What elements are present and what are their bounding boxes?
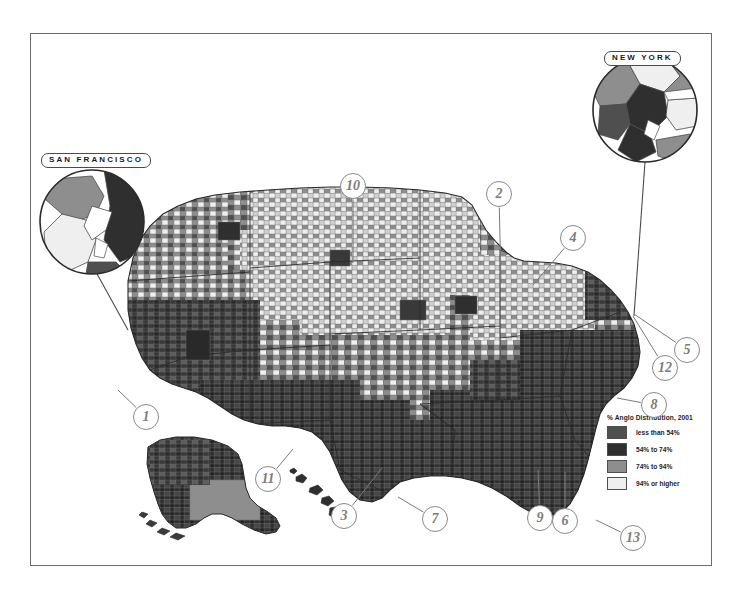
map-marker-6[interactable]: 6	[552, 508, 578, 534]
map-marker-1[interactable]: 1	[133, 404, 159, 430]
inset-label-new-york: NEW YORK	[604, 51, 681, 66]
map-marker-label: 6	[562, 513, 569, 529]
map-marker-label: 4	[570, 230, 577, 246]
legend-swatch	[607, 443, 627, 456]
map-marker-label: 9	[537, 510, 544, 526]
map-marker-label: 12	[658, 360, 672, 376]
legend-label: 94% or higher	[636, 480, 680, 487]
legend-swatch	[607, 426, 627, 439]
legend-swatch	[607, 460, 627, 473]
legend-row: less than 54%	[607, 426, 707, 439]
map-marker-5[interactable]: 5	[674, 337, 700, 363]
map-marker-3[interactable]: 3	[331, 503, 357, 529]
legend-label: 54% to 74%	[636, 446, 672, 453]
leader-line-1	[118, 390, 136, 408]
leader-line-8	[617, 398, 641, 402]
leader-line-11	[277, 449, 293, 469]
map-marker-label: 2	[496, 186, 503, 202]
legend-row: 74% to 94%	[607, 460, 707, 473]
legend-row: 94% or higher	[607, 477, 707, 490]
map-marker-label: 1	[143, 409, 150, 425]
map-marker-label: 13	[626, 530, 640, 546]
map-marker-label: 11	[261, 471, 274, 487]
legend-row: 54% to 74%	[607, 443, 707, 456]
inset-label-san-francisco: SAN FRANCISCO	[41, 153, 151, 168]
legend-swatch	[607, 477, 627, 490]
map-marker-8[interactable]: 8	[641, 392, 667, 418]
legend-label: 74% to 94%	[636, 463, 672, 470]
map-marker-label: 8	[651, 397, 658, 413]
map-marker-11[interactable]: 11	[255, 466, 281, 492]
legend-label: less than 54%	[636, 429, 680, 436]
map-marker-label: 5	[684, 342, 691, 358]
map-marker-9[interactable]: 9	[527, 505, 553, 531]
map-marker-label: 3	[341, 508, 348, 524]
us-choropleth-map	[0, 0, 741, 591]
leader-line-13	[596, 520, 621, 532]
map-marker-4[interactable]: 4	[560, 225, 586, 251]
map-marker-label: 7	[432, 511, 439, 527]
map-legend: % Anglo Distribution, 2001 less than 54%…	[607, 414, 707, 494]
map-marker-10[interactable]: 10	[340, 173, 366, 199]
map-marker-13[interactable]: 13	[620, 525, 646, 551]
map-marker-7[interactable]: 7	[422, 506, 448, 532]
map-marker-12[interactable]: 12	[652, 355, 678, 381]
new-york-inset	[593, 58, 697, 316]
map-marker-label: 10	[346, 178, 360, 194]
leader-line-7	[398, 497, 423, 512]
map-marker-2[interactable]: 2	[486, 181, 512, 207]
map-figure: SAN FRANCISCO NEW YORK % Anglo Distribut…	[0, 0, 741, 591]
